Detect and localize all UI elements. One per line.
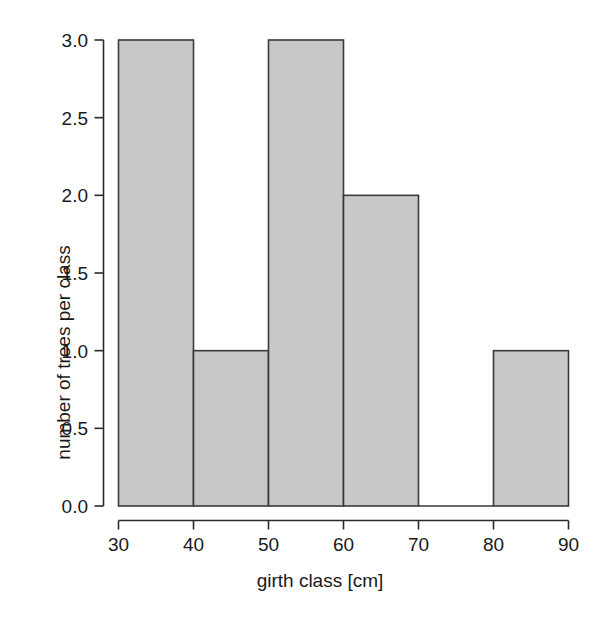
plot-area <box>0 0 596 619</box>
x-axis <box>119 521 569 530</box>
histogram-figure: number of trees per class 0.00.51.01.52.… <box>0 0 596 619</box>
histogram-bar <box>344 195 419 506</box>
histogram-bar <box>269 40 344 506</box>
y-axis <box>95 40 104 506</box>
histogram-bar <box>119 40 194 506</box>
bars-group <box>119 40 569 506</box>
histogram-bar <box>194 351 269 506</box>
histogram-bar <box>494 351 569 506</box>
